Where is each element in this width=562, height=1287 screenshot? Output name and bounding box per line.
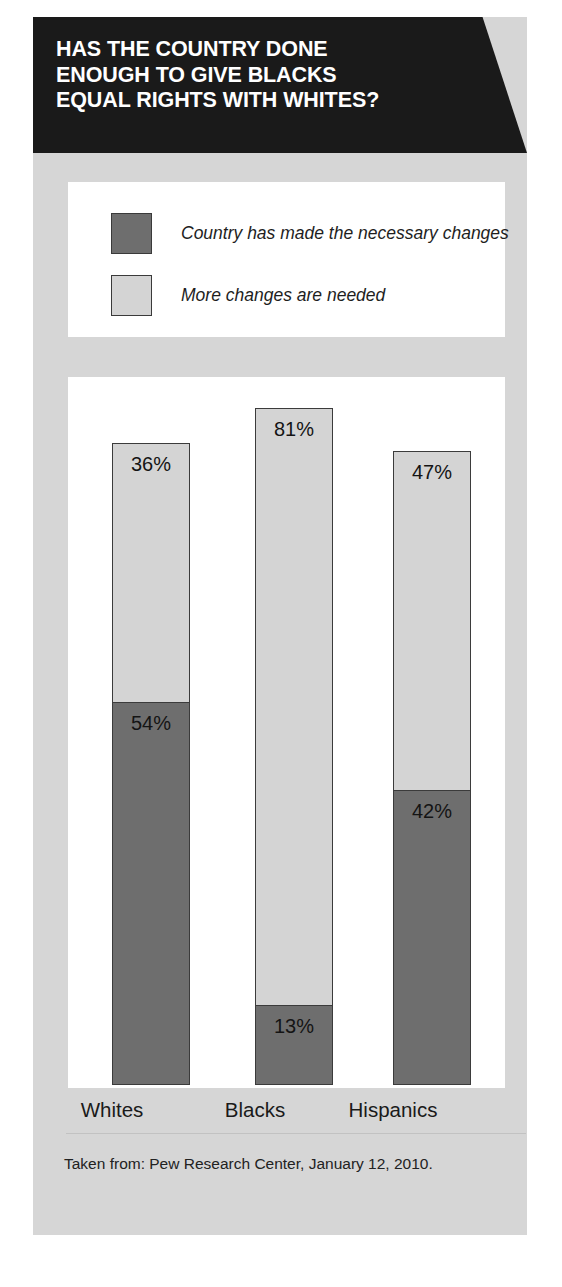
stacked-bar-plot: 36% 54% 81% 13% 47% [68,377,505,1088]
category-label-whites: Whites [37,1098,187,1122]
bar-value-hispanics-more-changes: 47% [394,461,470,484]
bar-value-hispanics-made-changes: 42% [394,800,470,823]
title-line-3: EQUAL RIGHTS WITH WHITES? [56,88,456,114]
legend-item-country-made-changes: Country has made the necessary changes [111,213,509,254]
chart-panel: 36% 54% 81% 13% 47% [68,377,505,1088]
bar-segment-whites-more-changes: 36% [113,444,189,702]
legend-label-more-changes-needed: More changes are needed [181,285,385,306]
title-line-1: HAS THE COUNTRY DONE [56,37,456,63]
bar-whites: 36% 54% [112,443,190,1085]
page-title: HAS THE COUNTRY DONE ENOUGH TO GIVE BLAC… [56,37,456,114]
legend-item-more-changes-needed: More changes are needed [111,275,385,316]
source-note: Taken from: Pew Research Center, January… [64,1155,433,1173]
bar-segment-hispanics-made-changes: 42% [394,790,470,1084]
bar-segment-blacks-made-changes: 13% [256,1005,332,1084]
footer-divider [66,1133,526,1134]
title-line-2: ENOUGH TO GIVE BLACKS [56,63,456,89]
bar-value-blacks-made-changes: 13% [256,1015,332,1038]
bar-value-whites-made-changes: 54% [113,712,189,735]
category-label-hispanics: Hispanics [318,1098,468,1122]
title-banner: HAS THE COUNTRY DONE ENOUGH TO GIVE BLAC… [33,17,527,153]
bar-segment-whites-made-changes: 54% [113,702,189,1084]
bar-blacks: 81% 13% [255,408,333,1085]
legend-label-country-made-changes: Country has made the necessary changes [181,223,509,244]
category-label-blacks: Blacks [180,1098,330,1122]
bar-segment-hispanics-more-changes: 47% [394,452,470,790]
legend-swatch-dark [111,213,152,254]
infographic-poster: HAS THE COUNTRY DONE ENOUGH TO GIVE BLAC… [33,17,527,1235]
bar-hispanics: 47% 42% [393,451,471,1085]
legend-swatch-light [111,275,152,316]
bar-value-blacks-more-changes: 81% [256,418,332,441]
bar-value-whites-more-changes: 36% [113,453,189,476]
chart-legend: Country has made the necessary changes M… [68,182,505,337]
bar-segment-blacks-more-changes: 81% [256,409,332,1005]
